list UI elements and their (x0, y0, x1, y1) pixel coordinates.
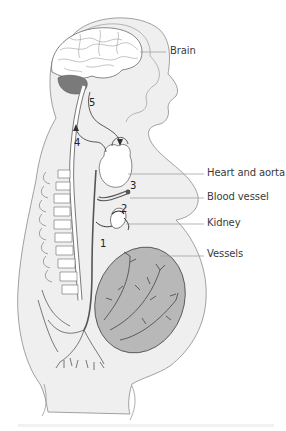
marker-4: 4 (74, 137, 80, 148)
label-blood-vessel: Blood vessel (207, 191, 269, 202)
label-vessels: Vessels (207, 248, 243, 259)
body-illustration (0, 0, 286, 431)
marker-1: 1 (100, 238, 106, 249)
label-kidney: Kidney (207, 217, 241, 228)
marker-2: 2 (121, 203, 127, 214)
label-brain: Brain (170, 45, 196, 56)
diagram: Brain Heart and aorta Blood vessel Kidne… (0, 0, 286, 431)
marker-5: 5 (89, 97, 95, 108)
marker-3: 3 (130, 180, 136, 191)
label-heart-and-aorta: Heart and aorta (207, 167, 285, 178)
bottom-divider (18, 424, 274, 427)
